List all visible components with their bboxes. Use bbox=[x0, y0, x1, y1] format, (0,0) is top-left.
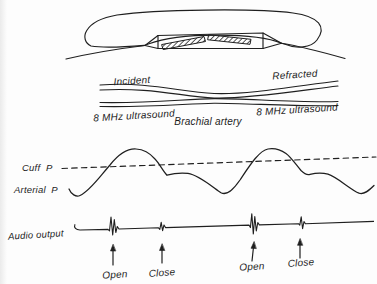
event-label-close-1: Close bbox=[142, 265, 183, 279]
pressure-traces bbox=[62, 149, 376, 196]
audio-output-waveform bbox=[75, 214, 374, 235]
incident-label-line1: Incident bbox=[85, 72, 180, 89]
cuff-pressure-label: Cuff P bbox=[22, 163, 52, 174]
refracted-label-line2: 8 MHz ultrasound bbox=[250, 101, 345, 118]
figure-canvas: Incident 8 MHz ultrasound Refracted 8 MH… bbox=[0, 0, 377, 284]
refracted-ultrasound-label: Refracted 8 MHz ultrasound bbox=[246, 43, 345, 141]
diagram-artwork bbox=[0, 0, 377, 284]
arterial-pressure-label: Arterial P bbox=[14, 185, 58, 196]
close-arrow-1 bbox=[160, 244, 165, 263]
event-label-close-2: Close bbox=[281, 255, 322, 269]
incident-ultrasound-label: Incident 8 MHz ultrasound bbox=[83, 49, 182, 147]
brachial-artery-label: Brachial artery bbox=[158, 116, 258, 128]
audio-trace bbox=[75, 214, 374, 235]
arterial-pressure-waveform bbox=[69, 149, 374, 196]
open-arrow-1 bbox=[111, 245, 116, 266]
open-arrow-2 bbox=[251, 242, 256, 261]
close-arrow-2 bbox=[298, 239, 303, 258]
event-arrows bbox=[111, 239, 303, 265]
refracted-label-line1: Refracted bbox=[248, 66, 343, 83]
